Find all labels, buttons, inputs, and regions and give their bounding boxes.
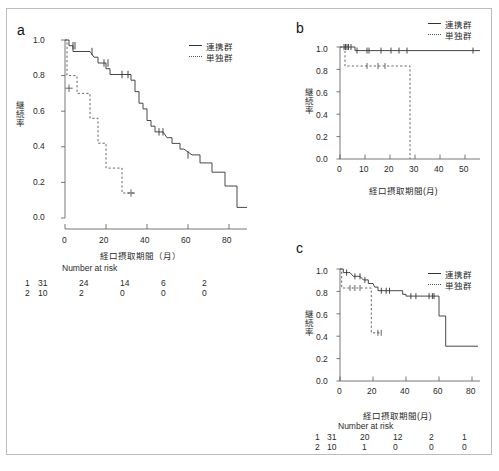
panel-c-ytick-0.2: 0.2 [316,354,328,364]
panel-c-letter: c [296,240,303,256]
panel-b-ytick-0.8: 0.8 [316,66,328,76]
panel-a-ytick-0.4: 0.4 [33,141,45,151]
panel-a-xtick-80: 80 [222,235,231,245]
figure-root: a 1.0 0.8 0.6 0.4 0.2 0.0 継続率 0 20 40 60… [0,0,499,471]
panel-c-xtick-0: 0 [337,386,342,396]
panel-a-legend: 連携群 単独群 [189,40,233,62]
panel-a-risk-heading: Number at risk [62,263,117,273]
panel-c-ytick-0.4: 0.4 [316,332,328,342]
panel-c-ytick-0.8: 0.8 [316,288,328,298]
panel-a-risk-row2-v3: 0 [161,288,166,298]
panel-a-risk-row2-group: 2 [25,288,30,298]
panel-b-y-axis-label: 継続率 [303,88,312,115]
panel-c-xtick-20: 20 [367,386,376,396]
panel-b-legend-item-solid: 連携群 [428,18,472,29]
panel-a-legend-item-dotted: 単独群 [189,51,233,62]
panel-b-xtick-30: 30 [409,164,418,174]
panel-c-xtick-80: 80 [466,386,475,396]
panel-c-risk-row1-v3: 2 [429,432,434,442]
panel-a-ytick-0.0: 0.0 [33,212,45,222]
panel-a-ytick-1.0: 1.0 [33,35,45,45]
panel-a-risk-row1-v4: 2 [202,278,207,288]
panel-c-risk-row2-v0: 10 [327,442,336,452]
panel-b-ytick-0.4: 0.4 [316,110,328,120]
panel-c-ytick-1.0: 1.0 [316,266,328,276]
panel-a-risk-row2-v2: 0 [120,288,125,298]
panel-b-xtick-10: 10 [359,164,368,174]
panel-b-x-axis-label: 経口摂取期間(月) [369,184,438,196]
panel-a-xtick-60: 60 [181,235,190,245]
panel-c-risk-row1-v2: 12 [393,432,402,442]
panel-b-ytick-0.0: 0.0 [316,154,328,164]
panel-c-risk-row2-group: 2 [315,442,320,452]
panel-a-ytick-0.6: 0.6 [33,106,45,116]
panel-c-risk-heading: Number at risk [338,421,393,431]
panel-c-risk-row1-group: 1 [315,432,320,442]
panel-a-xtick-20: 20 [99,235,108,245]
panel-b-xtick-50: 50 [459,164,468,174]
panel-c-xtick-60: 60 [433,386,442,396]
panel-c-ytick-0.6: 0.6 [316,310,328,320]
panel-a-risk-row1-v2: 14 [120,278,129,288]
panel-b-ytick-0.2: 0.2 [316,132,328,142]
panel-a-xtick-0: 0 [62,235,67,245]
panel-c-risk-row1-v1: 20 [360,432,369,442]
panel-c-risk-row2-v3: 0 [429,442,434,452]
dotted-line-icon [189,56,202,57]
dotted-line-icon [428,34,441,35]
panel-c-risk-row1-v4: 1 [462,432,467,442]
panel-b-ytick-0.6: 0.6 [316,88,328,98]
solid-line-icon [428,23,441,24]
panel-a-y-axis-label: 継続率 [14,101,23,128]
panel-a-risk-row1-v3: 6 [161,278,166,288]
panel-c-y-axis-label: 継続率 [303,310,312,337]
panel-a-legend-label-dotted: 単独群 [206,51,233,63]
panel-c-risk-row2-v4: 0 [462,442,467,452]
panel-c-risk-row1-v0: 31 [327,432,336,442]
panel-a-risk-row2-v0: 10 [38,288,47,298]
panel-b-xtick-40: 40 [434,164,443,174]
panel-b-legend-label-dotted: 単独群 [445,29,472,41]
panel-a-risk-row1-v0: 31 [38,278,47,288]
panel-a-risk-row2-v1: 2 [79,288,84,298]
panel-a-ytick-0.2: 0.2 [33,177,45,187]
panel-a-risk-row1-group: 1 [25,278,30,288]
panel-a-xtick-40: 40 [140,235,149,245]
panel-a-legend-item-solid: 連携群 [189,40,233,51]
panel-b-xtick-20: 20 [384,164,393,174]
panel-b-ytick-1.0: 1.0 [316,44,328,54]
panel-c-x-axis-label: 経口摂取期間(月) [363,409,432,421]
solid-line-icon [189,45,202,46]
panel-c-ytick-0.0: 0.0 [316,376,328,386]
panel-a-plot [57,33,267,233]
panel-b-xtick-0: 0 [337,164,342,174]
panel-b-plot [334,42,494,172]
panel-c-risk-row2-v1: 1 [362,442,367,452]
panel-b-legend-item-dotted: 単独群 [428,29,472,40]
panel-c-risk-row2-v2: 0 [393,442,398,452]
panel-a-ytick-0.8: 0.8 [33,70,45,80]
panel-a-x-axis-label: 経口摂取期間（月） [100,249,181,261]
panel-b-legend: 連携群 単独群 [428,18,472,40]
panel-c-plot [334,264,494,394]
panel-a-risk-row1-v1: 24 [79,278,88,288]
panel-b-letter: b [296,20,304,36]
panel-a-letter: a [17,22,25,38]
panel-a-risk-row2-v4: 0 [202,288,207,298]
panel-c-xtick-40: 40 [400,386,409,396]
